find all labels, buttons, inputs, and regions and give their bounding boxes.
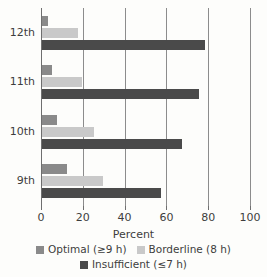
x-axis-tick-label: 60 — [151, 212, 181, 223]
bar-11th-series-1 — [42, 77, 82, 87]
y-axis-label-10th: 10th — [0, 126, 35, 137]
bar-9th-series-0 — [42, 164, 67, 174]
legend-label: Borderline (8 h) — [149, 244, 231, 255]
bar-12th-series-2 — [42, 40, 205, 50]
legend-swatch-icon — [137, 246, 145, 254]
legend: Optimal (≥9 h)Borderline (8 h) Insuffici… — [0, 244, 267, 274]
legend-label: Optimal (≥9 h) — [48, 244, 127, 255]
bar-12th-series-1 — [42, 28, 78, 38]
x-tick-mark — [208, 206, 209, 210]
x-tick-mark — [83, 206, 84, 210]
x-tick-mark — [125, 206, 126, 210]
y-axis-label-11th: 11th — [0, 76, 35, 87]
legend-swatch-icon — [80, 261, 88, 269]
gridline — [166, 8, 167, 206]
bar-10th-series-1 — [42, 127, 94, 137]
x-axis-title: Percent — [0, 228, 267, 241]
legend-item[interactable]: Borderline (8 h) — [137, 244, 231, 255]
legend-item[interactable]: Optimal (≥9 h) — [36, 244, 127, 255]
y-axis-label-9th: 9th — [0, 175, 35, 186]
legend-item[interactable]: Insufficient (≤7 h) — [80, 259, 187, 270]
bar-chart: 12th11th10th9th 020406080100 Percent Opt… — [0, 0, 267, 277]
x-axis-tick-label: 80 — [193, 212, 223, 223]
legend-swatch-icon — [36, 246, 44, 254]
bar-10th-series-0 — [42, 115, 57, 125]
gridline — [125, 8, 126, 206]
legend-row-2: Insufficient (≤7 h) — [0, 259, 267, 270]
plot-area — [41, 8, 250, 206]
x-axis-tick-label: 100 — [235, 212, 265, 223]
bar-9th-series-1 — [42, 176, 103, 186]
bar-11th-series-2 — [42, 89, 199, 99]
y-axis-label-12th: 12th — [0, 27, 35, 38]
x-axis-tick-label: 0 — [26, 212, 56, 223]
gridline — [250, 8, 251, 206]
x-axis-tick-label: 40 — [110, 212, 140, 223]
x-axis-tick-label: 20 — [68, 212, 98, 223]
bar-10th-series-2 — [42, 139, 182, 149]
legend-row-1: Optimal (≥9 h)Borderline (8 h) — [0, 244, 267, 255]
legend-label: Insufficient (≤7 h) — [92, 259, 187, 270]
bar-12th-series-0 — [42, 16, 48, 26]
x-tick-mark — [250, 206, 251, 210]
bar-9th-series-2 — [42, 188, 161, 198]
x-tick-mark — [166, 206, 167, 210]
x-tick-mark — [41, 206, 42, 210]
gridline — [208, 8, 209, 206]
bar-11th-series-0 — [42, 65, 52, 75]
